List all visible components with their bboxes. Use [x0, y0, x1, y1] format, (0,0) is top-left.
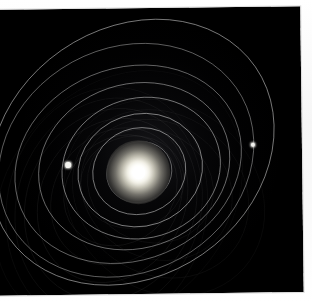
orbit-layer — [0, 6, 304, 296]
orbit-path — [0, 31, 272, 296]
sky-background — [0, 6, 304, 296]
orbit-path — [0, 6, 296, 296]
orbit-canvas[interactable] — [0, 6, 304, 296]
page-root — [0, 0, 312, 304]
orbit-path — [44, 78, 237, 258]
orbit-path — [63, 97, 218, 243]
orbit-path — [16, 57, 252, 275]
orbit-path — [110, 145, 167, 200]
orbit-path — [97, 132, 181, 213]
orbit-path — [0, 6, 304, 296]
orbit-paths-svg — [0, 6, 304, 296]
